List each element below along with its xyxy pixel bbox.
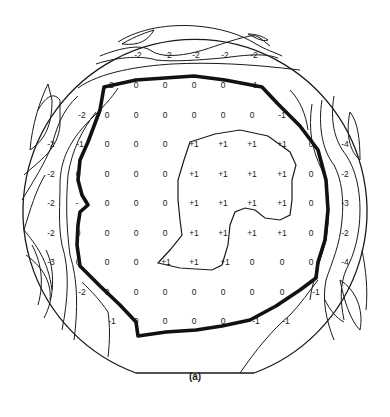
grid-value: +1 [247,139,257,149]
grid-value: 0 [250,287,255,297]
grid-value: -4 [341,139,349,149]
grid-value: -2 [78,110,86,120]
grid-value: 0 [105,287,110,297]
grid-value: -1 [108,316,116,326]
grid-value: 0 [163,316,168,326]
grid-value: 0 [309,228,314,238]
grid-value: 0 [134,257,139,267]
grid-value: 0 [280,287,285,297]
grid-value: 0 [134,198,139,208]
grid-values: -2-2-2-2-2-20000-1-2000000-1-2-1000+1+1+… [47,50,349,326]
wafer-contour-map: -2-2-2-2-2-20000-1-2000000-1-2-1000+1+1+… [0,0,390,417]
grid-value: -1 [278,110,286,120]
grid-value: +1 [218,169,228,179]
grid-value: -2 [192,50,200,60]
grid-value: 0 [221,316,226,326]
grid-value: +1 [247,228,257,238]
grid-value: 0 [192,110,197,120]
grid-value: 0 [250,110,255,120]
grid-value: 0 [134,139,139,149]
grid-value: 0 [163,80,168,90]
grid-value: +1 [189,198,199,208]
top-edge-contours [78,26,300,88]
grid-value: +1 [161,257,171,267]
grid-value: +1 [189,257,199,267]
grid-value: -3 [341,198,349,208]
grid-value: +1 [277,139,287,149]
grid-value: +1 [247,198,257,208]
grid-value: -1 [252,316,260,326]
grid-value: +1 [218,198,228,208]
grid-value: -2 [47,198,55,208]
grid-value: 0 [192,80,197,90]
grid-value: +1 [189,169,199,179]
grid-value: -4 [341,257,349,267]
grid-value: +1 [277,198,287,208]
grid-value: 0 [221,80,226,90]
grid-value: -2 [47,228,55,238]
grid-value: -2 [134,50,142,60]
grid-value: 0 [309,257,314,267]
grid-value: 0 [221,287,226,297]
grid-value: -1 [76,139,84,149]
grid-value: 0 [192,316,197,326]
grid-value: 0 [309,169,314,179]
grid-value: 0 [250,257,255,267]
grid-value: +1 [247,169,257,179]
grid-value: +1 [189,139,199,149]
grid-value: +1 [218,228,228,238]
grid-value: 0 [105,139,110,149]
grid-value: +1 [277,228,287,238]
grid-value: 0 [105,198,110,208]
grid-value: - [76,198,79,208]
grid-value: 0 [163,198,168,208]
grid-value: -2 [106,80,114,90]
grid-value: -1 [312,287,320,297]
grid-value: -3 [47,257,55,267]
grid-value: 0 [163,110,168,120]
grid-value: 0 [134,169,139,179]
grid-value: 0 [163,139,168,149]
grid-value: -2 [164,50,172,60]
grid-value: -2 [47,169,55,179]
figure-caption: (a) [0,371,390,382]
grid-value: 0 [192,287,197,297]
grid-value: 0 [134,287,139,297]
grid-value: -2 [221,50,229,60]
grid-value: 0 [134,80,139,90]
grid-value: 0 [105,257,110,267]
grid-value: 0 [163,169,168,179]
grid-value: -2 [78,287,86,297]
grid-value: 0 [163,228,168,238]
grid-value: 0 [134,110,139,120]
grid-value: 0 [221,110,226,120]
grid-value: +1 [189,228,199,238]
grid-value: +1 [277,169,287,179]
grid-value: 0 [280,257,285,267]
grid-value: 0 [105,228,110,238]
grid-value: +1 [218,139,228,149]
grid-value: -2 [47,139,55,149]
grid-value: -2 [341,169,349,179]
grid-value: 0 [134,316,139,326]
grid-value: 0 [134,228,139,238]
grid-value: 0 [76,228,81,238]
grid-value: 0 [309,139,314,149]
grid-value: -1 [250,80,258,90]
grid-value: 0 [163,287,168,297]
grid-value: +1 [220,257,230,267]
left-edge-contours [22,84,118,357]
zero-contour-line [77,76,328,336]
grid-value: 0 [105,110,110,120]
grid-value: 0 [76,169,81,179]
grid-value: 0 [105,169,110,179]
grid-value: 0 [76,257,81,267]
grid-value: -1 [282,316,290,326]
grid-value: -2 [341,228,349,238]
grid-value: 0 [309,198,314,208]
grid-value: -2 [250,50,258,60]
